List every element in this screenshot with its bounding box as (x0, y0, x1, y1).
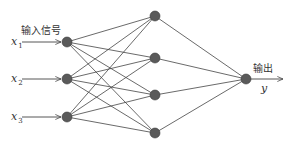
input-x2-label: x2 (11, 73, 23, 87)
input-x1-label: x1 (11, 36, 23, 50)
input-x3-sub: 3 (18, 117, 22, 125)
hidden-layer (150, 11, 160, 138)
input-hidden-connections (67, 16, 155, 133)
input-x2-var: x (11, 72, 17, 85)
input-layer (62, 37, 72, 122)
input-x1-var: x (11, 35, 17, 48)
input-signal-label: 输入信号 (21, 26, 61, 36)
input-x2-sub: 2 (18, 79, 22, 87)
input-node-1 (62, 37, 72, 47)
neural-network-diagram (0, 0, 289, 150)
hidden-node-3 (150, 90, 160, 100)
input-x3-var: x (11, 110, 17, 123)
hidden-output-connections (155, 16, 246, 133)
input-arrows (22, 42, 61, 117)
output-y-label: y (261, 83, 267, 94)
hidden-node-1 (150, 11, 160, 21)
output-layer (241, 74, 251, 84)
input-node-2 (62, 74, 72, 84)
output-label: 输出 (253, 64, 273, 74)
hidden-node-4 (150, 128, 160, 138)
output-node (241, 74, 251, 84)
input-x3-label: x3 (11, 111, 23, 125)
input-node-3 (62, 112, 72, 122)
input-x1-sub: 1 (18, 42, 22, 50)
hidden-node-2 (150, 53, 160, 63)
